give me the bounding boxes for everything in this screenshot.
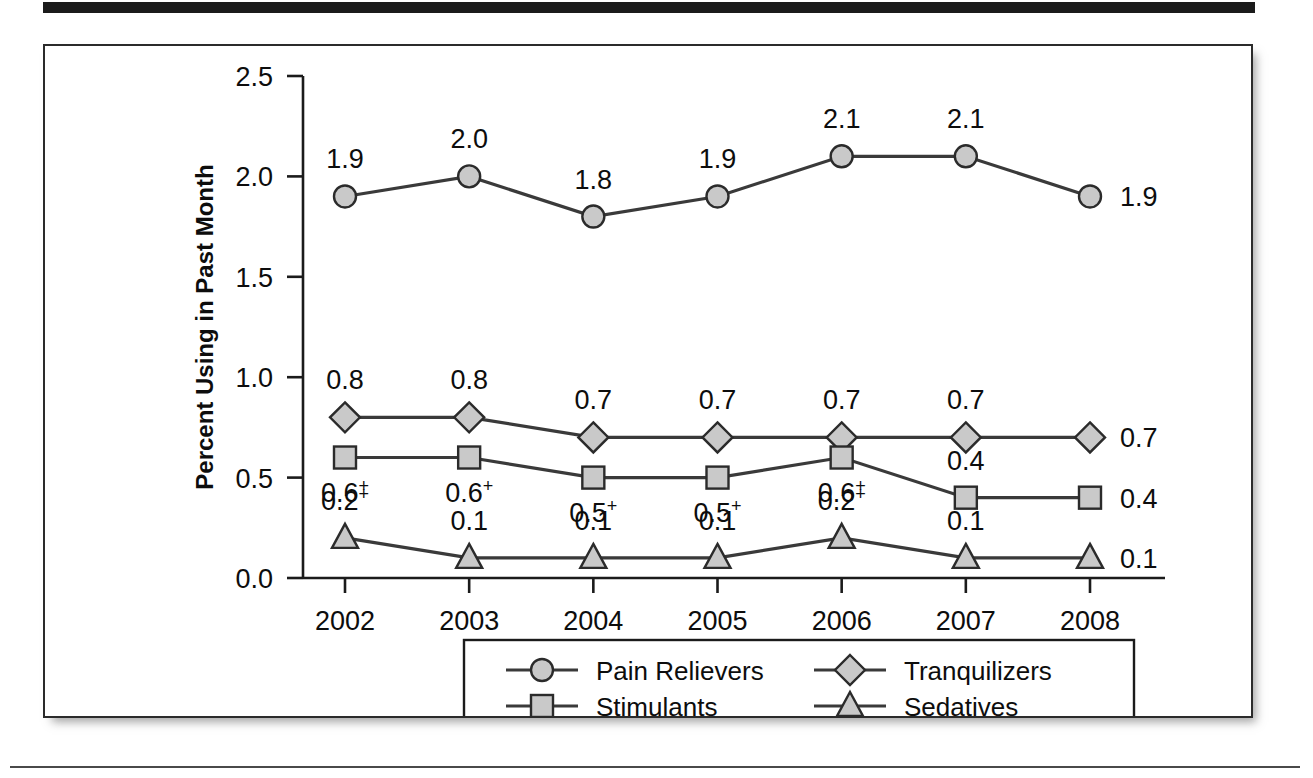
data-label: 0.1 — [947, 506, 985, 536]
data-label: 0.7 — [575, 385, 613, 415]
data-point-marker-circle — [458, 165, 480, 187]
data-point-marker-triangle — [829, 524, 855, 548]
data-label: 0.2+ — [818, 484, 866, 516]
data-point-marker-triangle — [580, 544, 606, 568]
data-label: 0.8 — [326, 365, 364, 395]
data-label: 1.9 — [326, 144, 364, 174]
significance-marker: + — [359, 484, 370, 504]
data-label: 2.0 — [450, 124, 488, 154]
data-label: 0.6+ — [445, 476, 493, 508]
line-chart: 0.00.51.01.52.02.52002200320042005200620… — [45, 46, 1251, 716]
data-label: 1.9 — [1120, 182, 1158, 212]
x-tick-label-2006: 2006 — [812, 606, 872, 636]
y-tick-label-2.5: 2.5 — [235, 62, 273, 92]
x-tick-label-2002: 2002 — [315, 606, 375, 636]
data-point-marker-diamond — [578, 422, 608, 452]
data-point-marker-diamond — [703, 422, 733, 452]
y-tick-label-0.0: 0.0 — [235, 564, 273, 594]
data-label: 2.1 — [947, 104, 985, 134]
data-label: 0.1 — [575, 506, 613, 536]
data-point-marker-circle — [1079, 185, 1101, 207]
page-bottom-rule — [10, 766, 1300, 768]
data-point-marker-diamond — [330, 402, 360, 432]
data-label: 0.4 — [947, 446, 985, 476]
page-top-rule — [43, 2, 1255, 13]
figure-frame: 0.00.51.01.52.02.52002200320042005200620… — [43, 44, 1253, 718]
legend-label-stimulants[interactable]: Stimulants — [596, 692, 717, 716]
data-point-marker-circle — [955, 145, 977, 167]
legend-label-tranquilizers[interactable]: Tranquilizers — [904, 656, 1052, 686]
x-tick-label-2005: 2005 — [687, 606, 747, 636]
chart-legend: Pain RelieversTranquilizersStimulantsSed… — [464, 640, 1134, 716]
data-label: 0.8 — [450, 365, 488, 395]
data-point-marker-triangle — [1077, 544, 1103, 568]
data-point-marker-circle — [707, 185, 729, 207]
data-label: 0.7 — [823, 385, 861, 415]
data-point-marker-square — [582, 467, 604, 489]
data-label: 1.9 — [699, 144, 737, 174]
data-label: 0.1 — [1120, 544, 1158, 574]
legend-label-pain-relievers[interactable]: Pain Relievers — [596, 656, 764, 686]
data-point-marker-circle — [831, 145, 853, 167]
data-point-marker-circle — [582, 206, 604, 228]
data-point-marker-square — [1079, 487, 1101, 509]
x-tick-label-2003: 2003 — [439, 606, 499, 636]
x-tick-label-2008: 2008 — [1060, 606, 1120, 636]
data-point-marker-diamond — [1075, 422, 1105, 452]
x-tick-label-2004: 2004 — [563, 606, 623, 636]
data-label: 0.7 — [947, 385, 985, 415]
data-point-marker-square — [458, 447, 480, 469]
data-label: 2.1 — [823, 104, 861, 134]
data-point-marker-square — [531, 695, 553, 716]
y-tick-label-2.0: 2.0 — [235, 162, 273, 192]
legend-label-sedatives[interactable]: Sedatives — [904, 692, 1018, 716]
significance-marker: + — [483, 476, 494, 496]
x-tick-label-2007: 2007 — [936, 606, 996, 636]
y-tick-label-1.5: 1.5 — [235, 263, 273, 293]
y-tick-label-1.0: 1.0 — [235, 363, 273, 393]
data-point-marker-square — [334, 447, 356, 469]
data-point-marker-diamond — [454, 402, 484, 432]
data-label: 0.1 — [450, 506, 488, 536]
data-label: 0.4 — [1120, 484, 1158, 514]
data-point-marker-square — [831, 447, 853, 469]
data-label: 0.1 — [699, 506, 737, 536]
data-label: 1.8 — [575, 165, 613, 195]
y-tick-label-0.5: 0.5 — [235, 464, 273, 494]
data-point-marker-circle — [334, 185, 356, 207]
data-point-marker-triangle — [332, 524, 358, 548]
data-label: 0.2+ — [321, 484, 369, 516]
data-point-marker-square — [707, 467, 729, 489]
data-point-marker-circle — [531, 659, 553, 681]
y-axis-title: Percent Using in Past Month — [191, 164, 218, 489]
data-label: 0.7 — [699, 385, 737, 415]
significance-marker: + — [855, 484, 866, 504]
data-label: 0.7 — [1120, 423, 1158, 453]
